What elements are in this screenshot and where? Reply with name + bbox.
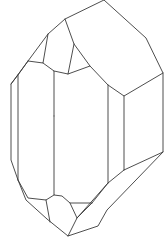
- crystal-outline: [11, 0, 163, 236]
- crystal-edge: [43, 63, 54, 116]
- crystal-edge: [68, 44, 74, 74]
- crystal-edge: [68, 203, 77, 236]
- crystal-edge: [54, 116, 92, 203]
- crystal-edges: [11, 0, 163, 236]
- crystal-edge: [77, 203, 92, 218]
- crystal-edge: [90, 66, 163, 96]
- crystal-edge: [54, 19, 90, 74]
- crystal-edge: [124, 152, 163, 170]
- crystal-drawing: [0, 0, 167, 239]
- crystal-edge: [18, 180, 54, 200]
- crystal-figure: Crystal line drawing: [0, 0, 167, 239]
- crystal-edge: [92, 183, 108, 203]
- crystal-edge: [11, 61, 28, 84]
